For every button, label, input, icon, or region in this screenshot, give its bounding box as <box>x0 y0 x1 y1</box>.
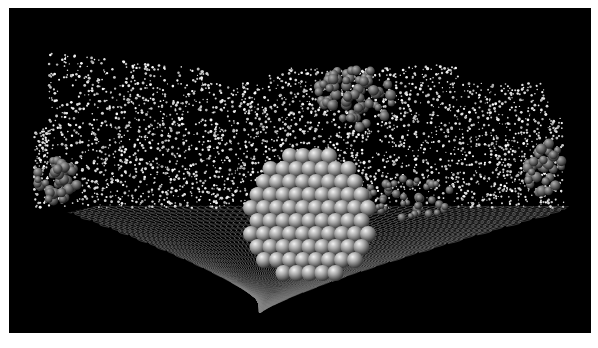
simulation-render <box>9 8 591 333</box>
nanoparticle <box>243 148 376 281</box>
molecular-scene <box>9 8 591 333</box>
